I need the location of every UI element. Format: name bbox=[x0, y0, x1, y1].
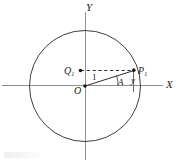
point-marker-O bbox=[83, 84, 87, 88]
point-label-P1: P1 bbox=[138, 66, 147, 76]
point-marker-Q1 bbox=[79, 69, 83, 73]
angle-label-A: A bbox=[118, 78, 124, 87]
point-label-P1-subscript: 1 bbox=[144, 70, 147, 77]
x-axis-label: X bbox=[166, 79, 173, 90]
y-axis-label: Y bbox=[86, 2, 92, 13]
point-label-Q1-subscript: 1 bbox=[71, 70, 74, 77]
point-marker-P1 bbox=[132, 68, 136, 72]
point-label-Q1: Q1 bbox=[64, 66, 74, 76]
height-label-y: y bbox=[131, 76, 135, 85]
radius-length-label: 1 bbox=[92, 73, 97, 82]
geometry-figure: X Y O Q1 P1 1 A y bbox=[0, 0, 185, 163]
origin-label: O bbox=[74, 86, 81, 96]
